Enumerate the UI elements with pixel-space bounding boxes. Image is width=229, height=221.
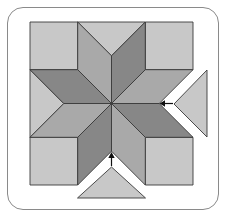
- corner-square-top-right: [145, 22, 193, 70]
- corner-square-bottom-left: [30, 137, 78, 185]
- corner-square-top-left: [30, 22, 78, 70]
- corner-square-bottom-right: [145, 137, 193, 185]
- quilt-block-diagram: [0, 0, 229, 221]
- bottom-triangle-insert-arrow: [108, 152, 114, 166]
